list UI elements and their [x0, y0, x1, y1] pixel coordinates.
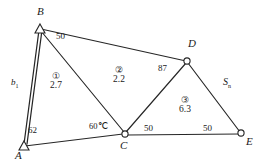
dist-ab-label: 62	[28, 126, 37, 135]
vertex-label-B: B	[37, 6, 44, 17]
figure-canvas: B A C D E b1 Sn 50 87 62 50 50 60℃ ① 2.7…	[0, 0, 264, 166]
baseline-subscript: 1	[16, 83, 19, 89]
triangle-region-1: ① 2.7	[44, 72, 68, 91]
marker-circle-E	[238, 130, 244, 136]
triangle-region-3-value: 6.3	[173, 105, 197, 115]
marker-triangle-B	[35, 24, 45, 33]
dist-ce-label: 50	[144, 124, 153, 133]
vertex-label-D: D	[188, 38, 196, 49]
baseline-label: b1	[11, 78, 19, 89]
edge-ac	[25, 134, 123, 146]
side-label: Sn	[223, 77, 231, 89]
marker-circle-C	[122, 131, 128, 137]
triangle-region-1-value: 2.7	[44, 81, 68, 91]
vertex-label-C: C	[120, 140, 127, 151]
dist-de-label: 50	[203, 124, 212, 133]
edge-ce	[127, 134, 239, 135]
triangle-region-2-value: 2.2	[107, 75, 131, 85]
angle-at-c-label: 60℃	[89, 122, 108, 131]
dist-dc-label: 87	[158, 64, 167, 73]
marker-circle-D	[184, 58, 190, 64]
dist-bd-label: 50	[56, 32, 65, 41]
triangle-region-2: ② 2.2	[107, 66, 131, 85]
vertex-label-E: E	[246, 136, 253, 147]
triangle-region-3: ③ 6.3	[173, 96, 197, 115]
side-subscript: n	[228, 83, 231, 89]
vertex-label-A: A	[15, 150, 22, 161]
